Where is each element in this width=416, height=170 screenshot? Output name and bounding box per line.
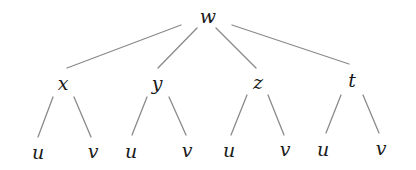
edge-y-u xyxy=(132,97,147,135)
node-y: y xyxy=(152,74,163,93)
node-z: z xyxy=(253,73,263,92)
leaf-y-v: v xyxy=(182,141,193,160)
edge-w-y xyxy=(158,28,197,68)
edge-t-v xyxy=(363,95,379,133)
node-t: t xyxy=(348,71,356,90)
edge-x-u xyxy=(38,97,53,137)
edge-z-u xyxy=(231,95,247,135)
leaf-t-v: v xyxy=(376,139,387,158)
edge-z-v xyxy=(268,95,284,135)
edge-x-v xyxy=(74,97,91,137)
leaf-x-u: u xyxy=(32,143,44,162)
tree-diagram: w x y z t u v u v u v u v xyxy=(0,0,416,170)
leaf-x-v: v xyxy=(88,142,99,161)
node-x: x xyxy=(58,74,69,93)
edge-t-u xyxy=(326,95,341,133)
edge-y-v xyxy=(169,97,186,135)
leaf-t-u: u xyxy=(317,140,329,159)
node-root-w: w xyxy=(200,7,216,26)
leaf-z-v: v xyxy=(280,140,291,159)
leaf-z-u: u xyxy=(223,141,235,160)
leaf-y-u: u xyxy=(125,142,137,161)
edge-w-z xyxy=(216,28,256,68)
edge-w-t xyxy=(232,25,349,64)
